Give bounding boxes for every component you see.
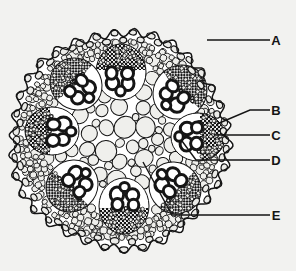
- sclerenchyma-cell: [113, 221, 116, 225]
- sclerenchyma-cell: [25, 127, 29, 130]
- xylem-vessel: [106, 67, 117, 80]
- sclerenchyma-cell: [102, 53, 105, 57]
- sclerenchyma-cell: [114, 217, 117, 221]
- sclerenchyma-cell: [106, 61, 109, 65]
- sclerenchyma-cell: [208, 146, 212, 149]
- sclerenchyma-cell: [137, 224, 140, 228]
- sclerenchyma-cell: [129, 55, 132, 59]
- sclerenchyma-cell: [37, 113, 41, 116]
- sclerenchyma-cell: [126, 58, 129, 62]
- sclerenchyma-cell: [210, 153, 214, 156]
- sclerenchyma-cell: [122, 216, 125, 220]
- epidermis-cell: [120, 37, 127, 43]
- sclerenchyma-cell: [131, 51, 134, 55]
- xylem-vessel: [112, 198, 123, 210]
- cortex-cell: [131, 39, 138, 45]
- sclerenchyma-cell: [137, 216, 140, 220]
- sclerenchyma-cell: [34, 122, 38, 125]
- xylem-vessel: [175, 132, 184, 141]
- sclerenchyma-cell: [140, 219, 143, 223]
- cortex-cell: [95, 41, 101, 48]
- phloem-cell: [124, 207, 127, 210]
- xylem-vessel: [116, 86, 125, 96]
- cortex-cell: [119, 234, 125, 241]
- sclerenchyma-cell: [28, 132, 32, 135]
- xylem-vessel: [66, 127, 76, 136]
- phloem-cell: [50, 115, 53, 118]
- sclerenchyma-cell: [37, 132, 41, 135]
- sclerenchyma-cell: [34, 143, 38, 146]
- stem-cross-section-svg: ABCDE: [0, 0, 296, 271]
- sclerenchyma-cell: [212, 119, 216, 122]
- sclerenchyma-cell: [141, 207, 144, 211]
- cortex-cell: [32, 154, 38, 160]
- xylem-vessel: [122, 67, 134, 79]
- label-e-text: E: [272, 208, 281, 223]
- epidermis-cell: [128, 238, 136, 245]
- sclerenchyma-cell: [211, 131, 215, 134]
- sclerenchyma-cell: [130, 223, 133, 227]
- phloem-cell: [46, 116, 49, 119]
- label-b-text: B: [271, 103, 280, 118]
- sclerenchyma-cell: [200, 155, 204, 158]
- xylem-vessel: [191, 137, 203, 149]
- sclerenchyma-cell: [44, 149, 48, 152]
- sclerenchyma-cell: [217, 142, 221, 145]
- sclerenchyma-cell: [142, 213, 145, 217]
- parenchyma-cell: [132, 113, 140, 121]
- sclerenchyma-cell: [116, 54, 119, 58]
- xylem-vessel: [47, 119, 60, 130]
- sclerenchyma-cell: [201, 150, 205, 153]
- sclerenchyma-cell: [102, 59, 105, 63]
- sclerenchyma-cell: [122, 49, 125, 53]
- parenchyma-cell: [158, 117, 166, 125]
- cortex-cell: [99, 226, 107, 234]
- sclerenchyma-cell: [129, 218, 132, 222]
- sclerenchyma-cell: [32, 128, 36, 131]
- sclerenchyma-cell: [36, 138, 40, 141]
- sclerenchyma-cell: [218, 145, 222, 148]
- sclerenchyma-cell: [120, 228, 123, 232]
- label-a-text: A: [271, 33, 281, 48]
- xylem-vessel: [192, 122, 203, 133]
- xylem-vessel: [128, 199, 139, 210]
- sclerenchyma-cell: [30, 124, 34, 127]
- sclerenchyma-cell: [209, 135, 213, 138]
- label-c-text: C: [271, 128, 281, 143]
- sclerenchyma-cell: [214, 149, 218, 152]
- cortex-cell: [24, 147, 30, 153]
- sclerenchyma-cell: [116, 50, 119, 54]
- sclerenchyma-cell: [204, 125, 208, 128]
- epidermis-cell: [102, 39, 111, 46]
- xylem-vessel: [120, 182, 129, 191]
- epidermis-cell: [110, 237, 119, 244]
- label-d-text: D: [271, 153, 280, 168]
- diagram-figure: ABCDE: [0, 0, 296, 271]
- sclerenchyma-cell: [108, 216, 111, 220]
- sclerenchyma-cell: [123, 54, 126, 58]
- xylem-vessel: [47, 135, 60, 147]
- sclerenchyma-cell: [117, 59, 120, 63]
- sclerenchyma-cell: [138, 60, 141, 64]
- sclerenchyma-cell: [202, 116, 206, 119]
- sclerenchyma-cell: [36, 118, 40, 121]
- sclerenchyma-cell: [208, 123, 212, 126]
